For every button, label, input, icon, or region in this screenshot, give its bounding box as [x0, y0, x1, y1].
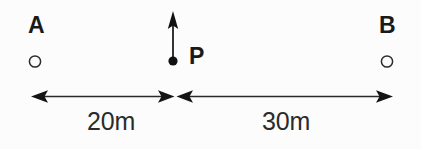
- point-label-p: P: [189, 45, 204, 68]
- point-marker-b: [381, 56, 392, 67]
- dimension-label-left: 20m: [87, 109, 135, 134]
- physics-diagram: A P B 20m 30m: [0, 0, 421, 149]
- point-marker-a: [29, 56, 40, 67]
- dimension-label-right: 30m: [262, 109, 310, 134]
- diagram-canvas: [0, 0, 421, 149]
- point-label-b: B: [379, 14, 396, 37]
- point-label-a: A: [28, 14, 45, 37]
